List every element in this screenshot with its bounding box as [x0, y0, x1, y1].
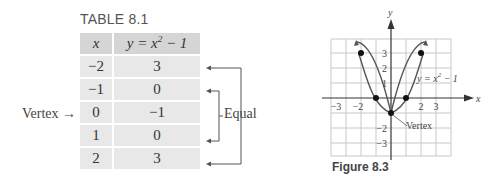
axes — [322, 24, 468, 160]
curve-arrow-icon — [354, 40, 359, 46]
figure-caption: Figure 8.3 — [332, 160, 389, 174]
y-tick: 3 — [382, 48, 387, 59]
parabola-graph: x y −3 −2 2 3 3 2 1 −2 −3 y = x2 − 1 Ver… — [0, 0, 503, 189]
vertex-pointer — [393, 115, 407, 126]
x-tick: 3 — [434, 101, 439, 112]
x-tick: 2 — [419, 101, 424, 112]
y-tick: −3 — [376, 138, 387, 149]
x-axis-arrow-icon — [464, 95, 474, 102]
y-axis-label: y — [387, 7, 393, 18]
y-tick: −2 — [376, 123, 387, 134]
curve-label: y = x2 − 1 — [416, 71, 458, 84]
vertex-label: Vertex — [406, 120, 432, 131]
y-axis-arrow-icon — [388, 19, 395, 29]
x-tick: −2 — [353, 101, 364, 112]
x-axis-label: x — [475, 93, 481, 104]
y-tick: 2 — [382, 63, 387, 74]
x-tick: −3 — [331, 101, 342, 112]
curve-arrow-icon — [423, 40, 428, 46]
